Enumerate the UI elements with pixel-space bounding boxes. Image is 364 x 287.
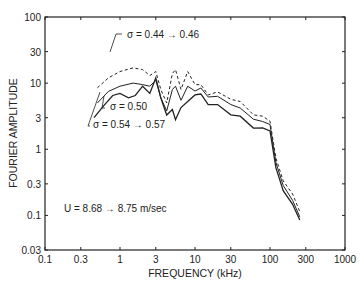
x-tick-label: 10: [189, 254, 201, 265]
annotation-velocity: U = 8.68 → 8.75 m/sec: [64, 203, 167, 214]
x-tick-label: 100: [262, 254, 279, 265]
annotation-sigma-050: σ = 0.50: [110, 101, 147, 112]
x-tick-label: 0.3: [74, 254, 88, 265]
data-curves: [94, 68, 300, 220]
fourier-amplitude-chart: 0.10.31310301003001000 0.030.10.31310301…: [0, 0, 364, 287]
y-axis-label: FOURIER AMPLITUDE: [7, 78, 19, 188]
annotation-sigma-054: σ = 0.54 → 0.57: [93, 119, 165, 130]
x-tick-label: 30: [225, 254, 237, 265]
x-axis-ticks: 0.10.31310301003001000: [38, 17, 357, 265]
y-tick-label: 0.3: [27, 179, 41, 190]
y-tick-label: 0.1: [27, 210, 41, 221]
y-tick-label: 0.03: [22, 245, 42, 256]
y-tick-label: 1: [35, 144, 41, 155]
x-tick-label: 1000: [334, 254, 357, 265]
y-tick-label: 10: [30, 78, 42, 89]
x-axis-label: FREQUENCY (kHz): [148, 267, 242, 279]
x-tick-label: 1: [117, 254, 123, 265]
y-tick-label: 30: [30, 47, 42, 58]
y-tick-label: 3: [35, 113, 41, 124]
x-tick-label: 300: [297, 254, 314, 265]
y-tick-label: 100: [24, 12, 41, 23]
y-axis-ticks: 0.030.10.3131030100: [22, 12, 345, 256]
annotation-leaders: [88, 34, 122, 126]
annotation-sigma-044: σ = 0.44 → 0.46: [127, 29, 199, 40]
series-line-2: [94, 78, 300, 220]
x-tick-label: 3: [153, 254, 159, 265]
plot-frame: [45, 17, 345, 250]
